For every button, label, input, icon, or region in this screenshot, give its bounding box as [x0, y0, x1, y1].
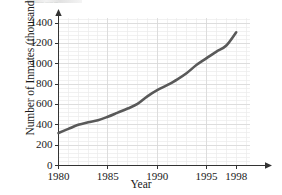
y-axis-arrowhead — [55, 9, 61, 16]
y-tick-label: 200 — [19, 139, 53, 150]
chart-screenshot: — ——— —— — Number of Inmates (thousands)… — [0, 0, 282, 195]
y-tick-label: 1400 — [19, 17, 53, 28]
y-tick-label: 0 — [19, 160, 53, 171]
x-axis-title: Year — [0, 178, 282, 190]
x-axis-arrowhead — [265, 162, 272, 168]
y-tick-label: 400 — [19, 119, 53, 130]
y-tick-label: 1200 — [19, 37, 53, 48]
y-tick-label: 600 — [19, 98, 53, 109]
y-tick-label: 800 — [19, 78, 53, 89]
y-tick-label: 1000 — [19, 58, 53, 69]
